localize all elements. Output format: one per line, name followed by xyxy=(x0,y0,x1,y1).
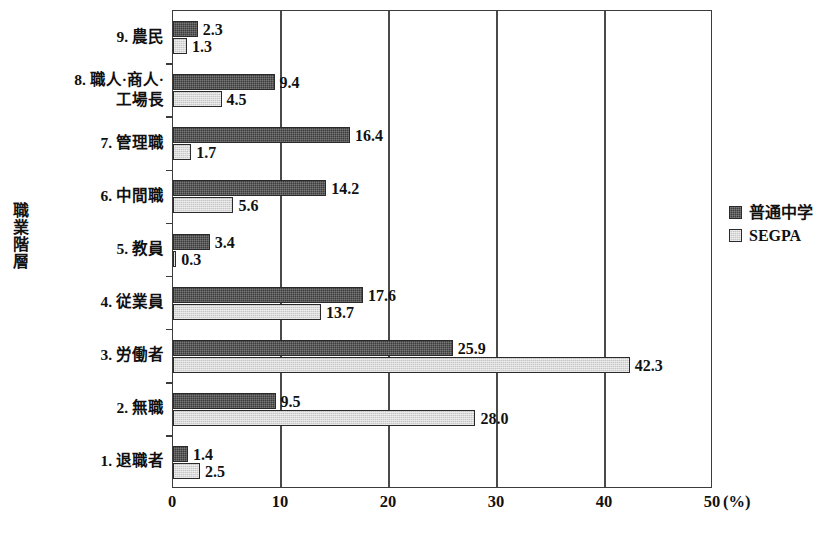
bar-1 xyxy=(173,463,200,479)
category-label: 8. 職人·商人· 工場長 xyxy=(26,70,164,110)
bar-value-label: 25.9 xyxy=(458,341,486,357)
bar-1 xyxy=(173,38,187,54)
bar-1 xyxy=(173,197,233,213)
bar-value-label: 9.4 xyxy=(280,75,300,91)
y-axis-tick-mark xyxy=(166,382,173,384)
bar-0 xyxy=(173,393,276,409)
plot-area: 2.31.39.44.516.41.714.25.63.40.317.613.7… xyxy=(172,10,712,488)
bar-value-label: 28.0 xyxy=(480,411,508,427)
bar-value-label: 1.3 xyxy=(192,39,212,55)
bar-0 xyxy=(173,340,453,356)
bar-value-label: 2.3 xyxy=(203,22,223,38)
bar-1 xyxy=(173,357,630,373)
category-label: 9. 農民 xyxy=(26,27,164,47)
y-axis-tick-mark xyxy=(166,223,173,225)
bar-value-label: 14.2 xyxy=(331,181,359,197)
bar-0 xyxy=(173,180,326,196)
category-label: 3. 労働者 xyxy=(26,345,164,365)
bar-0 xyxy=(173,74,275,90)
bar-0 xyxy=(173,446,188,462)
legend-item[interactable]: SEGPA xyxy=(729,225,813,246)
bar-value-label: 9.5 xyxy=(281,394,301,410)
gridline xyxy=(604,11,605,487)
category-label: 4. 従業員 xyxy=(26,292,164,312)
y-axis-tick-mark xyxy=(166,63,173,65)
y-axis-tick-mark xyxy=(166,116,173,118)
x-axis-tick-label: 30 xyxy=(488,492,505,512)
bar-value-label: 5.6 xyxy=(238,198,258,214)
legend-label: 普通中学 xyxy=(749,204,813,222)
bar-value-label: 42.3 xyxy=(635,358,663,374)
bar-value-label: 2.5 xyxy=(205,464,225,480)
bar-0 xyxy=(173,287,363,303)
y-axis-tick-mark xyxy=(166,435,173,437)
bar-0 xyxy=(173,234,210,250)
legend-label: SEGPA xyxy=(749,227,801,245)
x-axis-tick-label: 0 xyxy=(168,492,176,512)
bar-1 xyxy=(173,304,321,320)
x-axis-unit-label: (%) xyxy=(723,492,751,512)
bar-value-label: 0.3 xyxy=(181,252,201,268)
bar-value-label: 16.4 xyxy=(355,128,383,144)
category-label: 5. 教員 xyxy=(26,239,164,259)
y-axis-tick-mark xyxy=(166,170,173,172)
bar-value-label: 4.5 xyxy=(227,92,247,108)
bar-value-label: 13.7 xyxy=(326,305,354,321)
bar-0 xyxy=(173,21,198,37)
category-label: 2. 無職 xyxy=(26,398,164,418)
bar-1 xyxy=(173,410,475,426)
x-axis-tick-label: 10 xyxy=(272,492,289,512)
category-label: 7. 管理職 xyxy=(26,133,164,153)
y-axis-tick-mark xyxy=(166,276,173,278)
bar-value-label: 17.6 xyxy=(368,288,396,304)
category-label: 1. 退職者 xyxy=(26,451,164,471)
legend-item[interactable]: 普通中学 xyxy=(729,202,813,223)
y-axis-category-labels: 9. 農民8. 職人·商人· 工場長7. 管理職6. 中間職5. 教員4. 従業… xyxy=(30,10,168,488)
category-label: 6. 中間職 xyxy=(26,186,164,206)
bar-0 xyxy=(173,127,350,143)
bar-1 xyxy=(173,91,222,107)
x-axis-tick-label: 40 xyxy=(596,492,613,512)
bar-value-label: 1.4 xyxy=(193,447,213,463)
chart-legend: 普通中学SEGPA xyxy=(729,202,813,248)
x-axis-tick-label: 50 xyxy=(704,492,721,512)
y-axis-tick-mark xyxy=(166,329,173,331)
bar-1 xyxy=(173,251,176,267)
x-axis-tick-labels: (%) 01020304050 xyxy=(0,492,840,516)
light-dither-swatch xyxy=(729,229,742,242)
bar-value-label: 1.7 xyxy=(196,145,216,161)
dark-dither-swatch xyxy=(729,206,742,219)
bar-value-label: 3.4 xyxy=(215,235,235,251)
bar-chart: 職業階層 9. 農民8. 職人·商人· 工場長7. 管理職6. 中間職5. 教員… xyxy=(0,0,840,537)
bar-1 xyxy=(173,144,191,160)
x-axis-tick-label: 20 xyxy=(380,492,397,512)
